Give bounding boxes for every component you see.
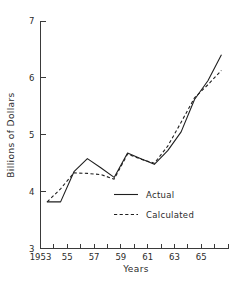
y-tick-label: 5 bbox=[29, 130, 34, 140]
x-tick-label: 57 bbox=[89, 252, 100, 262]
x-tick-label: 59 bbox=[115, 252, 126, 262]
x-axis-tick-labels: 1953555759616365 bbox=[30, 252, 207, 262]
x-tick-label: 61 bbox=[142, 252, 153, 262]
y-tick-label: 4 bbox=[29, 187, 34, 197]
y-axis-title: Billions of Dollars bbox=[6, 92, 16, 177]
y-axis-tick-labels: 34567 bbox=[29, 16, 34, 254]
x-tick-label: 55 bbox=[62, 252, 73, 262]
y-axis-ticks bbox=[41, 21, 46, 249]
x-axis-ticks bbox=[41, 244, 229, 249]
series-line-calculated bbox=[47, 70, 221, 201]
x-tick-label: 63 bbox=[169, 252, 180, 262]
x-tick-label: 65 bbox=[196, 252, 207, 262]
chart-container: 34567 1953555759616365 Billions of Dolla… bbox=[0, 0, 242, 281]
chart-legend: Actual Calculated bbox=[114, 190, 194, 220]
line-chart: 34567 1953555759616365 Billions of Dolla… bbox=[0, 0, 242, 281]
legend-label-actual: Actual bbox=[146, 190, 174, 200]
x-tick-label: 1953 bbox=[30, 252, 52, 262]
series-line-actual bbox=[47, 55, 221, 202]
axes-group bbox=[41, 21, 229, 249]
x-axis-title: Years bbox=[122, 264, 149, 274]
y-tick-label: 6 bbox=[29, 73, 34, 83]
y-tick-label: 7 bbox=[29, 16, 34, 26]
legend-label-calculated: Calculated bbox=[146, 210, 194, 220]
